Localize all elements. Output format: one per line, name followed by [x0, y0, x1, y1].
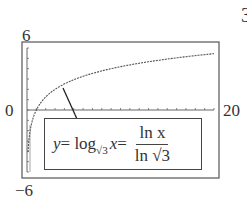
formula-y: y [53, 134, 61, 154]
exercise-number-fragment: 3 [241, 4, 247, 27]
formula-equals: = [117, 134, 127, 154]
x-max-label: 20 [223, 102, 240, 119]
formula-base: √3 [96, 144, 108, 156]
formula-log: = log [61, 134, 97, 154]
graph-window [0, 0, 247, 202]
x-min-label: 0 [5, 102, 14, 119]
formula-numerator: ln x [136, 123, 168, 145]
formula-arg: x [110, 134, 118, 154]
formula-denominator: ln √3 [135, 145, 170, 166]
formula-fraction: ln x ln √3 [135, 123, 170, 166]
y-min-label: −6 [15, 182, 33, 199]
formula-box: y = log √3 x = ln x ln √3 [44, 118, 202, 170]
y-max-label: 6 [22, 27, 31, 44]
